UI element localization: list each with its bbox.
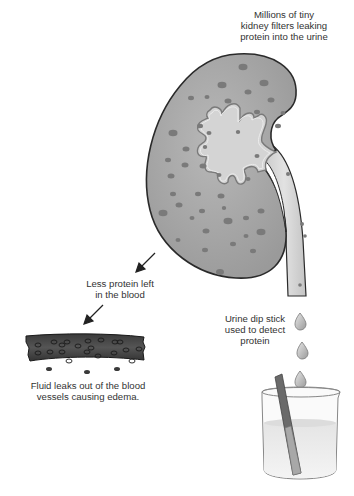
label-edema: Fluid leaks out of the blood vessels cau…: [10, 380, 166, 402]
label-kidney-filters: Millions of tiny kidney filters leaking …: [222, 9, 346, 42]
blood-vessel: [26, 334, 145, 374]
urine-droplets: [295, 313, 308, 388]
label-line: Fluid leaks out of the blood: [10, 380, 166, 391]
leaked-fluid-drops: [46, 367, 120, 374]
label-line: used to detect: [216, 324, 294, 335]
label-line: kidney filters leaking: [222, 20, 346, 31]
urine-beaker: [262, 387, 340, 479]
arrow-kidney-to-blood: [136, 253, 155, 272]
label-line: Millions of tiny: [222, 9, 346, 20]
label-line: protein: [216, 335, 294, 346]
label-less-protein: Less protein left in the blood: [72, 278, 168, 300]
diagram-canvas: [0, 0, 354, 496]
arrow-blood-to-vessel: [84, 305, 103, 324]
label-line: vessels causing edema.: [10, 391, 166, 402]
label-line: in the blood: [72, 289, 168, 300]
label-line: Urine dip stick: [216, 313, 294, 324]
label-line: protein into the urine: [222, 31, 346, 42]
label-dip-stick: Urine dip stick used to detect protein: [216, 313, 294, 346]
label-line: Less protein left: [72, 278, 168, 289]
